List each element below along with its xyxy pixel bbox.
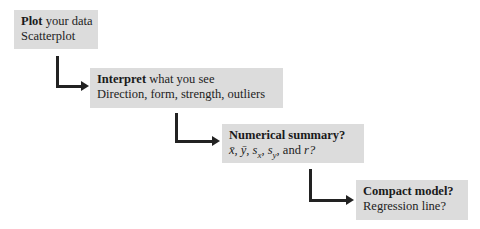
step-plot-title: Plot your data — [21, 14, 92, 29]
step-interpret-title: Interpret what you see — [97, 72, 277, 87]
step-numerical-summary-title: Numerical summary? — [229, 128, 358, 143]
step-compact-model-title: Compact model? — [363, 184, 462, 199]
step-interpret-box: Interpret what you see Direction, form, … — [90, 68, 283, 108]
step-compact-model-box: Compact model? Regression line? — [356, 180, 468, 220]
step-numerical-summary-box: Numerical summary? x̄, ȳ, sx, sy, and r? — [222, 124, 364, 163]
step-interpret-detail: Direction, form, strength, outliers — [97, 87, 277, 102]
step-plot-box: Plot your data Scatterplot — [14, 10, 98, 49]
step-numerical-summary-detail: x̄, ȳ, sx, sy, and r? — [229, 143, 358, 163]
step-plot-detail: Scatterplot — [21, 29, 92, 44]
step-compact-model-detail: Regression line? — [363, 199, 462, 214]
